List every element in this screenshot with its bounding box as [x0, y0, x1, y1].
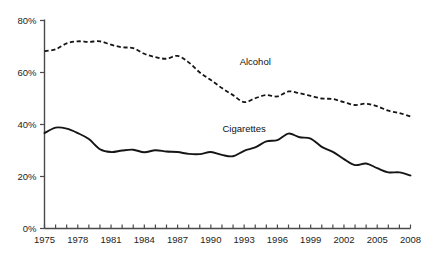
- line-chart: 0%20%40%60%80% 1975197819811984198719901…: [0, 0, 421, 261]
- y-axis-ticks: 0%20%40%60%80%: [17, 15, 44, 234]
- x-tick-label: 2008: [400, 234, 421, 245]
- series-label-alcohol: Alcohol: [240, 56, 271, 67]
- x-tick-label: 1975: [34, 234, 55, 245]
- x-tick-label: 1987: [167, 234, 188, 245]
- y-tick-label: 80%: [17, 15, 37, 26]
- x-tick-label: 2002: [333, 234, 354, 245]
- series-label-cigarettes: Cigarettes: [222, 123, 266, 134]
- chart-container: 0%20%40%60%80% 1975197819811984198719901…: [0, 0, 421, 261]
- y-tick-label: 20%: [17, 171, 37, 182]
- x-tick-label: 1990: [200, 234, 221, 245]
- x-axis-ticks: 1975197819811984198719901993199619992002…: [34, 225, 421, 245]
- x-tick-label: 1984: [134, 234, 155, 245]
- x-tick-label: 1996: [267, 234, 288, 245]
- x-tick-label: 1981: [100, 234, 121, 245]
- x-tick-label: 1978: [67, 234, 88, 245]
- y-tick-label: 40%: [17, 119, 37, 130]
- series-line-alcohol: [45, 41, 411, 116]
- x-tick-label: 1993: [234, 234, 255, 245]
- series-line-cigarettes: [45, 127, 411, 175]
- y-tick-label: 60%: [17, 67, 37, 78]
- x-tick-label: 1999: [300, 234, 321, 245]
- series-group: [45, 41, 411, 175]
- y-tick-label: 0%: [23, 223, 37, 234]
- x-tick-label: 2005: [367, 234, 388, 245]
